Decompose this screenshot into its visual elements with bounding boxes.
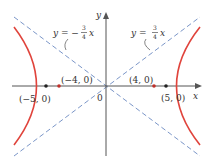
x-axis-label: x: [193, 91, 198, 101]
svg-text:4: 4: [82, 33, 86, 40]
hyperbola-figure: y x 0 (−5, 0) (−4, 0) (4, 0) (5, 0) y = …: [0, 0, 214, 162]
svg-text:4: 4: [153, 33, 157, 40]
chart-svg: y x 0 (−5, 0) (−4, 0) (4, 0) (5, 0) y = …: [0, 0, 214, 162]
svg-text:x: x: [160, 28, 165, 38]
origin-label: 0: [97, 93, 103, 103]
focus-right-point: [164, 84, 168, 88]
focus-right-label: (5, 0): [161, 93, 185, 103]
svg-text:3: 3: [153, 24, 157, 31]
asymptote-positive-label: y = 3 4 x: [130, 24, 165, 50]
vertex-right-label: (4, 0): [129, 75, 153, 85]
x-axis-arrow-icon: [195, 83, 202, 89]
vertex-left-label: (−4, 0): [61, 75, 93, 85]
y-axis-arrow-icon: [103, 12, 109, 19]
asymptote-negative-label: y = − 3 4 x: [52, 24, 94, 50]
svg-text:3: 3: [82, 24, 86, 31]
svg-text:y = −: y = −: [52, 28, 79, 38]
focus-left-label: (−5, 0): [19, 94, 51, 104]
svg-text:y =: y =: [130, 28, 147, 38]
y-axis-label: y: [95, 10, 102, 20]
focus-left-point: [44, 84, 48, 88]
svg-text:x: x: [89, 28, 94, 38]
